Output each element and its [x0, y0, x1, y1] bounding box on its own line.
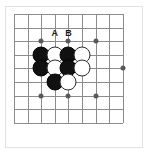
- board-frame: [5, 6, 143, 148]
- go-board-diagram: AB: [0, 0, 148, 155]
